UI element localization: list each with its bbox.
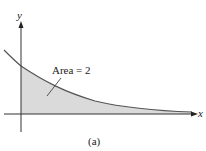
x-axis-label: x bbox=[198, 108, 203, 119]
area-annotation: Area = 2 bbox=[52, 65, 91, 76]
y-axis-arrow-icon bbox=[19, 21, 24, 28]
diagram-canvas bbox=[0, 0, 206, 151]
x-axis-arrow-icon bbox=[191, 112, 198, 117]
figure-caption: (a) bbox=[88, 136, 100, 147]
y-axis-label: y bbox=[17, 10, 22, 21]
shaded-area bbox=[21, 66, 192, 114]
